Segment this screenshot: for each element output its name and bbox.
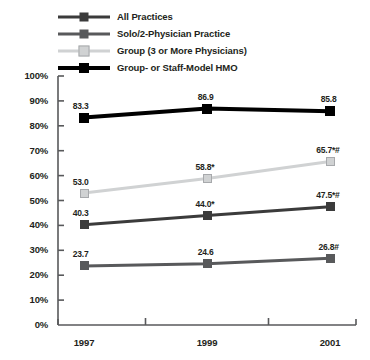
data-point-label: 58.8* — [196, 162, 215, 172]
data-point-label: 83.3 — [73, 101, 89, 111]
data-point-marker — [326, 157, 335, 166]
y-axis-tick-label: 100% — [14, 70, 48, 81]
axes-svg — [0, 0, 370, 360]
data-point-label: 26.8# — [319, 242, 339, 252]
y-axis-tick-label: 80% — [14, 120, 48, 131]
data-point-marker — [326, 202, 335, 211]
y-axis-tick-label: 20% — [14, 269, 48, 280]
data-point-marker — [203, 211, 212, 220]
data-point-marker — [80, 189, 89, 198]
y-axis-tick-label: 0% — [14, 319, 48, 330]
data-point-marker — [202, 104, 212, 114]
plot-area: 100%90%80%70%60%50%40%30%20%10%0%1997199… — [0, 0, 370, 360]
y-axis-tick-label: 10% — [14, 294, 48, 305]
data-point-marker — [203, 174, 212, 183]
data-point-marker — [80, 220, 89, 229]
data-point-marker — [203, 259, 212, 268]
data-point-label: 65.7*# — [316, 145, 339, 155]
x-axis-tick-label: 2001 — [306, 337, 354, 348]
x-axis-tick-label: 1997 — [60, 337, 108, 348]
chart-container: All PracticesSolo/2-Physician PracticeGr… — [0, 0, 370, 360]
data-point-label: 47.5*# — [316, 190, 339, 200]
y-axis-tick-label: 50% — [14, 195, 48, 206]
data-point-marker — [325, 106, 335, 116]
data-point-label: 24.6 — [198, 247, 214, 257]
data-point-label: 85.8 — [321, 94, 337, 104]
y-axis-tick-label: 90% — [14, 95, 48, 106]
data-point-label: 86.9 — [198, 92, 214, 102]
data-point-marker — [80, 261, 89, 270]
data-point-label: 23.7 — [73, 249, 89, 259]
data-point-label: 44.0* — [196, 199, 215, 209]
y-axis-tick-label: 30% — [14, 244, 48, 255]
y-axis-tick-label: 40% — [14, 219, 48, 230]
data-point-label: 53.0 — [73, 177, 89, 187]
data-point-marker — [79, 113, 89, 123]
data-point-label: 40.3 — [73, 208, 89, 218]
y-axis-tick-label: 70% — [14, 145, 48, 156]
x-axis-tick-label: 1999 — [183, 337, 231, 348]
data-point-marker — [326, 254, 335, 263]
y-axis-tick-label: 60% — [14, 170, 48, 181]
